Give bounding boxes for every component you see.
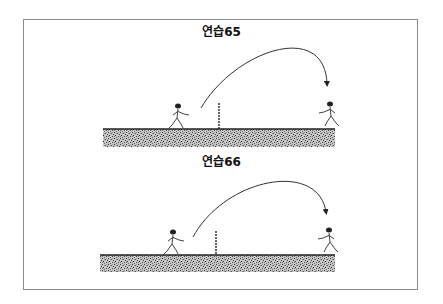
right-player-figure [318,228,338,253]
panel-exercise-65 [103,48,339,147]
left-player-figure [164,230,184,255]
diagram-canvas [0,0,443,304]
shuttle-trajectory-arrow [193,181,326,237]
right-player-figure [319,102,339,127]
left-player-figure [169,104,189,129]
ground-strip [103,129,335,147]
shuttle-trajectory-arrow [201,48,327,108]
panel-exercise-66 [100,181,338,272]
ground-strip [100,255,335,272]
